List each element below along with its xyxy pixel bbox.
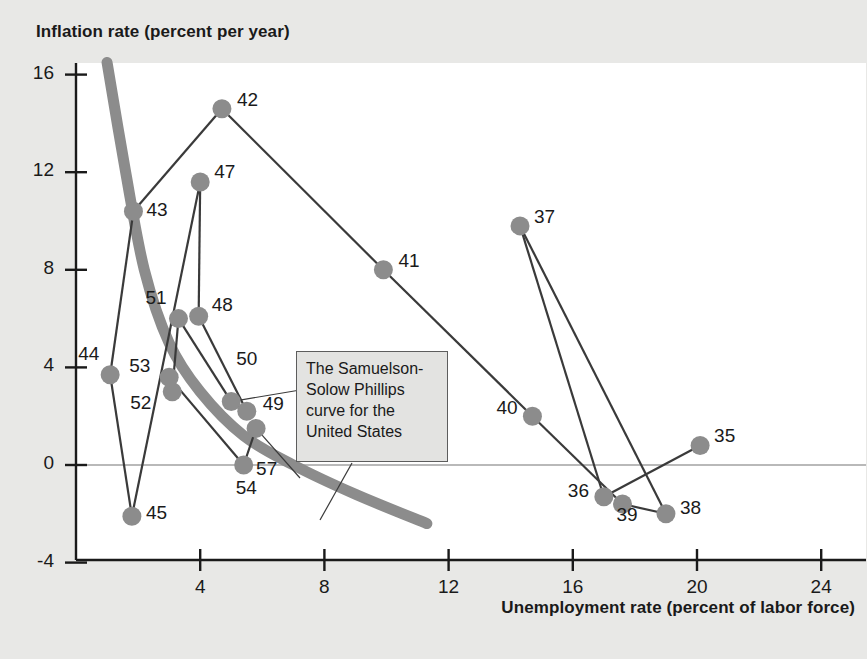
data-point-marker[interactable] [656, 504, 675, 523]
data-point-label: 48 [212, 294, 233, 316]
data-point-label: 39 [616, 504, 637, 526]
data-point-label: 35 [714, 425, 735, 447]
data-point-marker[interactable] [511, 216, 530, 235]
series-connector-line [132, 182, 200, 516]
y-tick-label: -4 [14, 550, 54, 572]
data-point-label: 45 [146, 502, 167, 524]
data-point-label: 47 [214, 161, 235, 183]
data-point-marker[interactable] [374, 260, 393, 279]
data-point-marker[interactable] [234, 456, 253, 475]
data-point-label: 41 [398, 250, 419, 272]
data-point-label: 36 [568, 480, 589, 502]
series-connector-line [520, 226, 604, 497]
data-point-label: 57 [256, 458, 277, 480]
x-tick-label: 8 [304, 576, 344, 598]
data-point-label: 49 [263, 393, 284, 415]
data-point-label: 52 [130, 392, 151, 414]
series-connector-line [222, 109, 383, 270]
data-point-label: 54 [236, 477, 257, 499]
x-tick-label: 4 [180, 576, 220, 598]
data-point-label: 53 [129, 355, 150, 377]
data-point-marker[interactable] [169, 309, 188, 328]
data-point-label: 44 [78, 343, 99, 365]
series-connector-line [604, 445, 700, 496]
x-tick-label: 20 [677, 576, 717, 598]
data-point-label: 50 [236, 348, 257, 370]
data-point-marker[interactable] [691, 436, 710, 455]
y-tick-label: 12 [14, 159, 54, 181]
data-point-marker[interactable] [247, 419, 266, 438]
annotation-callout: The Samuelson- Solow Phillips curve for … [296, 351, 448, 462]
data-point-marker[interactable] [222, 392, 241, 411]
x-tick-label: 24 [801, 576, 841, 598]
annotation-line-2: Solow Phillips [306, 379, 439, 400]
data-point-marker[interactable] [189, 307, 208, 326]
y-tick-label: 0 [14, 452, 54, 474]
y-tick-label: 16 [14, 62, 54, 84]
y-tick-label: 8 [14, 257, 54, 279]
data-point-label: 40 [496, 397, 517, 419]
series-connector-line [199, 182, 201, 316]
series-connector-line [520, 226, 666, 514]
series-connector-line [110, 375, 132, 517]
annotation-line-1: The Samuelson- [306, 358, 439, 379]
x-tick-label: 16 [553, 576, 593, 598]
phillips-curve-chart [0, 0, 867, 659]
data-point-marker[interactable] [191, 172, 210, 191]
series-connector-line [133, 109, 221, 211]
x-tick-label: 12 [429, 576, 469, 598]
series-connector-line [110, 211, 133, 374]
data-point-label: 38 [680, 497, 701, 519]
y-tick-label: 4 [14, 354, 54, 376]
data-point-label: 51 [145, 287, 166, 309]
data-point-marker[interactable] [101, 365, 120, 384]
annotation-line-3: curve for the [306, 400, 439, 421]
data-point-label: 43 [146, 199, 167, 221]
chart-root: Inflation rate (percent per year) Unempl… [0, 0, 867, 659]
data-point-marker[interactable] [594, 487, 613, 506]
data-point-marker[interactable] [160, 368, 179, 387]
data-point-marker[interactable] [212, 99, 231, 118]
data-point-label: 42 [237, 89, 258, 111]
data-point-marker[interactable] [523, 407, 542, 426]
annotation-line-4: United States [306, 421, 439, 442]
data-point-marker[interactable] [122, 507, 141, 526]
data-point-marker[interactable] [124, 202, 143, 221]
data-point-label: 37 [534, 206, 555, 228]
